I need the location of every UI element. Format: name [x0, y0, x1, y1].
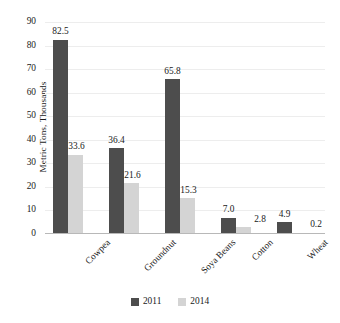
- bar-group: 82.533.6: [45, 22, 101, 234]
- bar-group: 65.815.3: [157, 22, 213, 234]
- x-axis-label-cotton: Cotton: [250, 238, 275, 263]
- bar-2014-soya-beans[interactable]: [180, 198, 195, 234]
- legend-item-2014[interactable]: 2014: [178, 297, 209, 306]
- bar-group: 7.02.8: [213, 22, 269, 234]
- y-axis-tick-label: 50: [27, 112, 36, 121]
- y-axis-tick-labels: 9080706050403020100: [0, 22, 41, 234]
- y-axis-tick-label: 30: [27, 159, 36, 168]
- y-axis-tick-label: 0: [31, 229, 36, 238]
- x-axis-category-labels: CowpeaGroundnutSoya BeansCottonWheat: [45, 234, 325, 290]
- legend-label: 2014: [190, 297, 209, 306]
- legend-swatch-icon: [178, 298, 186, 306]
- y-axis-tick-label: 10: [27, 206, 36, 215]
- y-axis-tick-label: 40: [27, 135, 36, 144]
- y-axis-tick-label: 80: [27, 41, 36, 50]
- y-axis-tick-label: 70: [27, 64, 36, 73]
- y-axis-tick-label: 20: [27, 182, 36, 191]
- bar-value-label: 7.0: [223, 205, 235, 214]
- x-axis-label-groundnut: Groundnut: [143, 238, 178, 273]
- y-axis-tick-label: 90: [27, 17, 36, 26]
- bar-value-label: 82.5: [52, 27, 68, 36]
- bar-groups: 82.533.636.421.665.815.37.02.84.90.2: [45, 22, 325, 234]
- x-axis-label-soya-beans: Soya Beans: [200, 238, 238, 276]
- bar-value-label: 0.2: [310, 220, 322, 229]
- bar-value-label: 4.9: [279, 210, 291, 219]
- bar-value-label: 2.8: [254, 215, 266, 224]
- bar-2011-cotton[interactable]: [221, 218, 236, 234]
- legend-swatch-icon: [131, 298, 139, 306]
- bar-value-label: 15.3: [180, 186, 196, 195]
- legend-item-2011[interactable]: 2011: [131, 297, 161, 306]
- bar-2011-soya-beans[interactable]: [165, 79, 180, 234]
- x-axis-label-cowpea: Cowpea: [84, 238, 112, 266]
- bar-value-label: 33.6: [68, 142, 84, 151]
- legend-label: 2011: [143, 297, 161, 306]
- x-axis-label-wheat: Wheat: [306, 238, 330, 262]
- bar-group: 36.421.6: [101, 22, 157, 234]
- bar-chart: Metric Tons, Thousands 90807060504030201…: [0, 0, 340, 323]
- bar-value-label: 65.8: [164, 67, 180, 76]
- bar-2011-cowpea[interactable]: [53, 40, 68, 234]
- bar-value-label: 21.6: [124, 171, 140, 180]
- bar-2014-cowpea[interactable]: [68, 155, 83, 234]
- bar-2014-groundnut[interactable]: [124, 183, 139, 234]
- y-axis-tick-label: 60: [27, 88, 36, 97]
- chart-legend: 20112014: [0, 297, 340, 306]
- bar-2011-groundnut[interactable]: [109, 148, 124, 234]
- plot-area: 82.533.636.421.665.815.37.02.84.90.2: [45, 22, 325, 234]
- bar-value-label: 36.4: [108, 136, 124, 145]
- bar-group: 4.90.2: [269, 22, 325, 234]
